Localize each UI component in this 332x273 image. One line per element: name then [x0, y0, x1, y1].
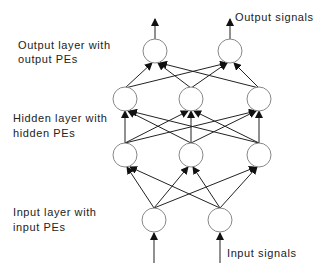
- neural-network-diagram: Output signals Output layer with output …: [0, 0, 332, 273]
- input-layer-label-line1: Input layer with: [13, 205, 97, 219]
- input-layer-label-line2: input PEs: [13, 220, 65, 234]
- hidden-layer-label-line2: hidden PEs: [13, 126, 75, 140]
- output-signals-label: Output signals: [235, 10, 314, 24]
- output-layer-label-line2: output PEs: [18, 52, 78, 66]
- hidden-layer-label-line1: Hidden layer with: [13, 111, 108, 125]
- input-signals-label: Input signals: [227, 246, 297, 260]
- output-layer-label-line1: Output layer with: [18, 38, 111, 52]
